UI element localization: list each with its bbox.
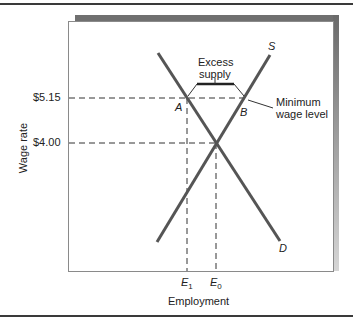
tick-label-515: $5.15 <box>33 91 61 103</box>
tick-label-400: $4.00 <box>33 136 61 148</box>
excess-supply-bracket-right <box>234 84 244 96</box>
min-wage-label-2: wage level <box>276 108 328 120</box>
e0-label: E0 <box>210 276 222 291</box>
chart-lines <box>0 0 353 319</box>
demand-curve-label: D <box>279 242 287 254</box>
min-wage-leader-line <box>248 100 273 108</box>
x-axis-label: Employment <box>168 295 229 307</box>
excess-supply-label-2: supply <box>199 68 231 80</box>
min-wage-label-1: Minimum <box>276 96 321 108</box>
e0-sub: 0 <box>217 282 221 291</box>
point-a-label: A <box>175 101 182 113</box>
e1-sub: 1 <box>188 282 192 291</box>
y-axis-label: Wage rate <box>17 121 29 175</box>
excess-supply-bracket-left <box>188 84 197 96</box>
e1-label: E1 <box>181 276 193 291</box>
excess-supply-label-1: Excess <box>198 56 233 68</box>
supply-curve-label: S <box>268 40 275 52</box>
point-b-label: B <box>240 106 247 118</box>
